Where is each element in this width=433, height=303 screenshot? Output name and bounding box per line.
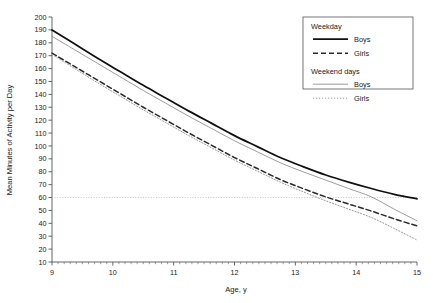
legend-group-title: Weekend days <box>311 67 360 76</box>
y-tick-label: 140 <box>35 90 47 99</box>
y-tick-label: 120 <box>35 116 47 125</box>
y-axis-title: Mean Minutes of Activity per Day <box>5 85 14 196</box>
x-tick-label: 11 <box>170 268 177 277</box>
x-tick-label: 10 <box>109 268 117 277</box>
x-tick-label: 12 <box>231 268 239 277</box>
chart-legend: WeekdayBoysGirlsWeekend daysBoysGirls <box>303 17 413 103</box>
y-tick-label: 10 <box>39 258 47 267</box>
y-tick-label: 150 <box>35 77 47 86</box>
y-tick-label: 80 <box>39 167 47 176</box>
y-tick-label: 110 <box>35 129 46 138</box>
y-tick-label: 180 <box>35 38 47 47</box>
y-axis-ticks: 1020304050607080901001101201301401501601… <box>35 13 53 267</box>
y-tick-label: 100 <box>35 142 47 151</box>
y-tick-label: 200 <box>35 13 47 22</box>
y-tick-label: 170 <box>35 51 47 60</box>
y-tick-label: 50 <box>39 206 47 215</box>
legend-group-title: Weekday <box>311 22 342 31</box>
y-tick-label: 40 <box>39 219 47 228</box>
y-tick-label: 30 <box>39 232 47 241</box>
chart-canvas: 1020304050607080901001101201301401501601… <box>0 0 433 303</box>
y-tick-label: 60 <box>39 193 47 202</box>
activity-line-chart: 1020304050607080901001101201301401501601… <box>0 0 433 303</box>
x-tick-label: 9 <box>50 268 54 277</box>
y-tick-label: 160 <box>35 64 47 73</box>
x-tick-label: 13 <box>291 268 299 277</box>
y-tick-label: 20 <box>39 245 47 254</box>
legend-entry-label: Girls <box>354 49 369 58</box>
y-tick-label: 90 <box>39 154 47 163</box>
y-tick-label: 130 <box>35 103 47 112</box>
legend-entry-label: Boys <box>354 35 371 44</box>
legend-entry-label: Girls <box>354 94 369 103</box>
y-tick-label: 70 <box>39 180 47 189</box>
x-axis-ticks: 9101112131415 <box>50 262 421 277</box>
y-tick-label: 190 <box>35 25 47 34</box>
x-tick-label: 14 <box>352 268 360 277</box>
x-axis-title: Age, y <box>225 285 247 294</box>
x-tick-label: 15 <box>413 268 421 277</box>
legend-entry-label: Boys <box>354 80 371 89</box>
